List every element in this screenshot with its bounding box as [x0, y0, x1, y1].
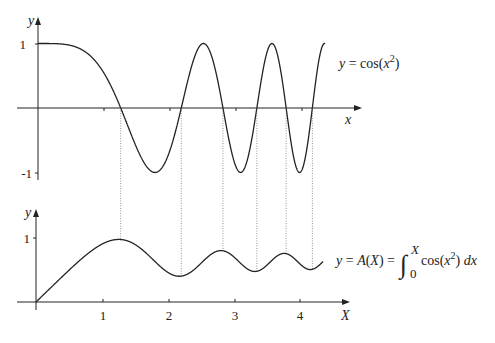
- top-chart: y 1 -1 x y = cos(x2): [17, 13, 400, 181]
- svg-text:0: 0: [410, 266, 417, 281]
- bottom-y-label: y: [23, 205, 32, 220]
- figure: y 1 -1 x y = cos(x2) y 1 1 2 3 4 X y = A…: [0, 0, 495, 343]
- bottom-xtick-label: 1: [100, 308, 107, 323]
- bottom-y-arrow-icon: [33, 209, 39, 217]
- bottom-x-arrow-icon: [342, 299, 350, 305]
- bottom-xtick-label: 4: [297, 308, 304, 323]
- bottom-ytick-1-label: 1: [24, 231, 31, 246]
- top-x-arrow-icon: [354, 105, 362, 111]
- svg-text:y = A(X) =: y = A(X) =: [334, 253, 395, 269]
- top-x-label: x: [344, 112, 352, 127]
- svg-text:∫: ∫: [398, 250, 409, 280]
- bottom-x-label: X: [340, 308, 350, 323]
- bottom-xtick-label: 2: [166, 308, 173, 323]
- integral-curve: [36, 239, 323, 302]
- bottom-curve-label: y = A(X) = ∫ X 0 cos(x2) dx: [334, 242, 478, 281]
- bottom-chart: y 1 1 2 3 4 X y = A(X) = ∫ X 0 cos(x2) d…: [17, 205, 478, 323]
- top-ytick-1-label: 1: [20, 37, 27, 52]
- top-ytick-neg1-label: -1: [21, 166, 32, 181]
- top-y-arrow-icon: [35, 17, 41, 25]
- svg-text:cos(x2) dx: cos(x2) dx: [421, 250, 478, 269]
- top-curve-label: y = cos(x2): [337, 53, 400, 72]
- svg-text:X: X: [410, 242, 420, 257]
- top-y-label: y: [26, 13, 35, 28]
- bottom-xtick-label: 3: [232, 308, 239, 323]
